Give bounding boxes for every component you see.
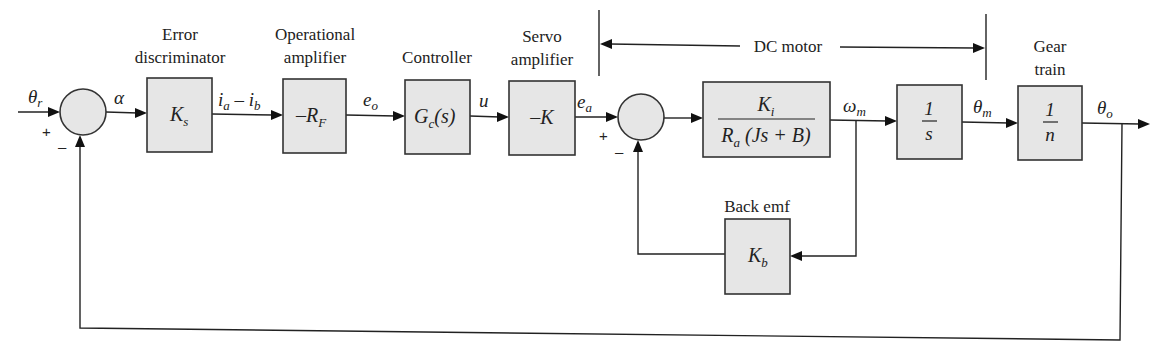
gear-numerator: 1 xyxy=(1045,99,1055,120)
arrowhead-icon xyxy=(497,112,509,122)
block-integrator: 1 s xyxy=(897,85,962,159)
signal-theta-o: θo xyxy=(1097,97,1113,121)
caption-line: amplifier xyxy=(511,50,574,69)
caption-gear-train: Gear train xyxy=(1033,37,1066,79)
arrowhead-icon xyxy=(691,113,703,123)
caption-operational-amplifier: Operational amplifier xyxy=(275,25,356,67)
signal-ia-ib: ia – ib xyxy=(218,89,261,113)
caption-line: amplifier xyxy=(284,48,347,67)
signal-theta-m: θm xyxy=(973,96,992,120)
caption-line: Servo xyxy=(522,27,562,46)
summing-junction-2: + – xyxy=(599,94,664,160)
plus-sign: + xyxy=(42,123,51,140)
signal-e-a: ea xyxy=(577,91,592,115)
arrowhead-icon xyxy=(48,107,60,117)
caption-back-emf: Back emf xyxy=(724,197,790,216)
caption-line: discriminator xyxy=(135,48,226,67)
arrowhead-icon xyxy=(1138,119,1150,129)
caption-error-discriminator: Error discriminator xyxy=(135,25,226,67)
block-back-emf: Kb xyxy=(725,219,790,294)
bracket-right-line xyxy=(840,47,975,48)
arrowhead-icon xyxy=(633,140,643,152)
dc-motor-bracket: DC motor xyxy=(599,10,986,80)
dc-motor-label: DC motor xyxy=(754,37,823,56)
arrowhead-icon xyxy=(790,251,802,261)
bracket-left-line xyxy=(610,44,740,46)
arrow-left-icon xyxy=(600,39,612,49)
block-diagram: Error discriminator Operational amplifie… xyxy=(0,0,1163,347)
signal-e-o: eo xyxy=(363,89,378,113)
signal-theta-r: θr xyxy=(28,86,43,110)
signal-u: u xyxy=(479,90,489,111)
minus-sign: – xyxy=(58,138,67,155)
arrowhead-icon xyxy=(271,110,283,120)
arrowhead-icon xyxy=(135,108,147,118)
integrator-denominator: s xyxy=(925,123,932,144)
block-servo-amplifier: –K xyxy=(509,81,575,155)
caption-servo-amplifier: Servo amplifier xyxy=(511,27,574,69)
caption-line: Error xyxy=(162,25,198,44)
caption-line: Operational xyxy=(275,25,356,44)
arrowhead-icon xyxy=(1006,118,1018,128)
arrowhead-icon xyxy=(393,111,405,121)
block-servo-label: –K xyxy=(529,106,555,128)
summing-junction-1: + – xyxy=(42,89,106,155)
signal-alpha: α xyxy=(114,87,125,108)
block-controller: Gc(s) xyxy=(405,80,470,154)
block-gear-train: 1 n xyxy=(1018,86,1082,160)
arrow-right-icon xyxy=(973,43,985,53)
integrator-numerator: 1 xyxy=(924,98,934,119)
block-ks: Ks xyxy=(147,78,212,152)
signal-omega-m: ωm xyxy=(843,95,866,119)
caption-controller: Controller xyxy=(402,48,472,67)
arrowhead-icon xyxy=(885,116,897,126)
block-rf: –RF xyxy=(283,79,346,153)
plus-sign: + xyxy=(599,127,608,144)
gear-denominator: n xyxy=(1045,124,1055,145)
caption-line: Gear xyxy=(1033,37,1066,56)
minus-sign: – xyxy=(615,143,624,160)
block-motor-transfer: Ki Ra (Js + B) xyxy=(703,82,830,157)
arrowhead-icon xyxy=(606,112,618,122)
arrowhead-icon xyxy=(75,135,85,147)
caption-line: train xyxy=(1034,60,1066,79)
